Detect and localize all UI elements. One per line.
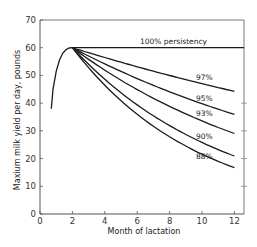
label-93: 93% [196, 109, 213, 118]
y-tick-label: 20 [25, 154, 36, 164]
rise-curve [51, 48, 72, 109]
label-90: 90% [196, 132, 213, 141]
persistency-chart: 010203040506070 024681012 100% persisten… [0, 0, 257, 247]
x-tick-label: 8 [167, 216, 172, 226]
plot-frame [40, 20, 244, 214]
x-axis-ticks: 024681012 [37, 211, 240, 226]
y-tick-label: 0 [31, 209, 36, 219]
y-tick-label: 40 [25, 98, 36, 108]
y-tick-label: 50 [25, 70, 36, 80]
y-tick-label: 70 [25, 15, 36, 25]
x-tick-label: 0 [37, 216, 42, 226]
label-97: 97% [196, 73, 213, 82]
x-tick-label: 10 [197, 216, 208, 226]
y-axis-title: Maxium milk yield per day, pounds [13, 50, 22, 190]
series-line-88 [72, 48, 234, 168]
y-tick-label: 10 [25, 181, 36, 191]
label-95: 95% [196, 94, 213, 103]
series-lines [51, 48, 244, 168]
x-tick-label: 2 [70, 216, 75, 226]
y-tick-label: 60 [25, 43, 36, 53]
x-tick-label: 12 [229, 216, 240, 226]
x-tick-label: 4 [102, 216, 107, 226]
label-100-persistency: 100% persistency [140, 37, 208, 46]
x-tick-label: 6 [134, 216, 139, 226]
x-axis-title: Month of lactation [108, 227, 181, 236]
y-tick-label: 30 [25, 126, 36, 136]
label-88: 88% [196, 152, 213, 161]
